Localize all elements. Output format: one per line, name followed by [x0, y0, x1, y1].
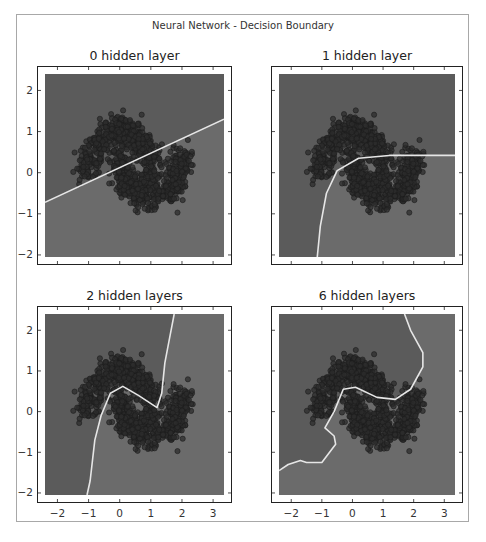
x-tick-label: 1	[380, 507, 387, 519]
x-tick-label: −2	[284, 507, 299, 519]
subplot-6-hidden-layers: 6 hidden layers−2−10123	[0, 0, 486, 542]
subplot-title: 6 hidden layers	[319, 288, 416, 303]
x-tick-label: 3	[441, 507, 448, 519]
x-tick-label: −1	[314, 507, 329, 519]
x-tick-label: 0	[349, 507, 356, 519]
x-tick-label: 2	[410, 507, 417, 519]
